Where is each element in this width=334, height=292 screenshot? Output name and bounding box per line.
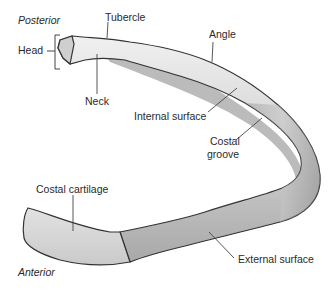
costal-groove-label-line2: groove <box>207 148 239 160</box>
tubercle-label: Tubercle <box>105 11 145 23</box>
costal-cartilage-shape <box>23 208 130 265</box>
head-bracket <box>55 35 60 69</box>
costal-groove-label-line1: Costal <box>210 135 240 147</box>
head-label: Head <box>18 44 43 56</box>
external-surface-label: External surface <box>238 253 314 265</box>
neck-label: Neck <box>85 95 109 107</box>
anterior-label: Anterior <box>18 266 55 278</box>
posterior-label: Posterior <box>18 14 60 26</box>
tubercle-leader <box>107 22 108 38</box>
angle-label: Angle <box>209 28 236 40</box>
rib-diagram: Posterior Tubercle Head Angle Neck Inter… <box>0 0 334 292</box>
rib-illustration <box>0 0 334 292</box>
internal-surface-label: Internal surface <box>134 110 206 122</box>
costal-cartilage-label: Costal cartilage <box>36 183 108 195</box>
angle-leader <box>212 42 213 62</box>
